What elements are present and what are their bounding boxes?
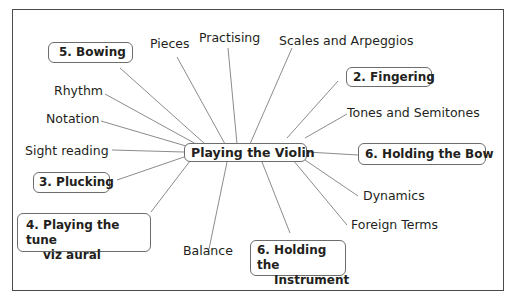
node-dynamics: Dynamics	[363, 188, 425, 203]
node-holding-instrument-line2: Instrument	[257, 273, 339, 288]
node-bowing: 5. Bowing	[48, 42, 133, 63]
node-playing-tune: 4. Playing the tune viz aural	[17, 213, 151, 252]
link-fingering	[287, 81, 338, 138]
node-balance: Balance	[183, 243, 233, 258]
link-scales	[250, 48, 292, 144]
node-plucking: 3. Plucking	[33, 172, 110, 193]
link-bowing	[120, 68, 205, 144]
link-sight-reading	[112, 150, 184, 152]
link-practising	[228, 48, 237, 144]
node-foreign: Foreign Terms	[351, 217, 438, 232]
node-practising: Practising	[199, 30, 260, 45]
node-holding-instrument-line1: 6. Holding the	[257, 243, 339, 273]
node-holding-instrument: 6. Holding the Instrument	[250, 240, 346, 276]
link-dynamics	[305, 160, 358, 196]
node-playing-tune-line2: viz aural	[26, 248, 144, 263]
center-node: Playing the Violin	[184, 143, 307, 162]
link-balance	[209, 162, 227, 249]
node-rhythm: Rhythm	[54, 83, 103, 98]
link-tones	[305, 114, 347, 138]
node-pieces: Pieces	[150, 36, 190, 51]
node-holding-bow: 6. Holding the Bow	[358, 143, 486, 165]
link-rhythm	[105, 94, 196, 144]
link-notation	[101, 121, 186, 146]
link-holding-bow	[307, 152, 358, 155]
link-plucking	[117, 157, 184, 180]
link-pieces	[177, 57, 225, 144]
node-playing-tune-line1: 4. Playing the tune	[26, 218, 144, 248]
node-fingering: 2. Fingering	[346, 67, 432, 87]
link-playing-tune	[151, 161, 190, 212]
node-notation: Notation	[46, 111, 100, 126]
node-scales: Scales and Arpeggios	[279, 33, 413, 48]
link-holding-instrument	[262, 162, 290, 233]
node-tones: Tones and Semitones	[347, 105, 480, 120]
node-sight-reading: Sight reading	[25, 143, 109, 158]
